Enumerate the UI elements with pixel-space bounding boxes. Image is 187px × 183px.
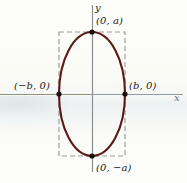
point-marker-top-vertex [89, 29, 94, 34]
label-left-vertex: (−b, 0) [14, 81, 50, 91]
y-axis-label: y [95, 3, 101, 13]
point-marker-bottom-vertex [89, 153, 94, 158]
label-right-vertex: (b, 0) [129, 81, 157, 91]
point-marker-right-vertex [122, 91, 127, 96]
label-bottom-vertex: (0, −a) [96, 163, 132, 173]
ellipse-diagram-figure: y x (0, a) (b, 0) (0, −a) (−b, 0) [0, 0, 187, 183]
point-marker-left-vertex [56, 91, 61, 96]
label-top-vertex: (0, a) [96, 16, 123, 26]
x-axis-label: x [174, 93, 180, 103]
plot-canvas [0, 0, 187, 183]
